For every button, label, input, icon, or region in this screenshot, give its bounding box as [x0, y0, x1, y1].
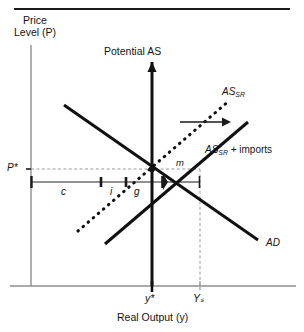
x-axis-tick-label-ys: Yₛ: [193, 292, 204, 304]
x-tick-label-1-text: Yₛ: [193, 292, 204, 304]
equilibrium-point-m: [149, 166, 155, 172]
potential-as-label: Potential AS: [104, 45, 161, 57]
as-sr-imports-label-sub: SR: [218, 149, 228, 156]
x-axis-title: Real Output (y): [117, 311, 188, 323]
point-label-m: m: [176, 157, 184, 168]
y-axis-title-line1: Price: [23, 14, 47, 26]
y-axis-title-line2: Level (P): [14, 26, 56, 38]
as-sr-label-text: AS: [222, 86, 235, 97]
x-axis-tick-label-y-star: y*: [145, 292, 154, 304]
potential-as-arrowhead-icon: [148, 62, 157, 72]
segment-label-i: i: [110, 186, 112, 198]
ad-label: AD: [266, 237, 280, 249]
segment-label-g: g: [134, 186, 140, 198]
y-axis-tick-label-p-star: P*: [7, 162, 18, 174]
potential-as-label-text: Potential AS: [104, 45, 161, 57]
as-sr-label-sub: SR: [235, 91, 245, 98]
segment-label-c: c: [61, 186, 66, 198]
as-sr-imports-label: ASSR + imports: [205, 144, 272, 156]
as-sr-label: ASSR: [222, 86, 245, 98]
shift-arrowhead-icon: [222, 118, 231, 127]
x-tick-label-0-text: y*: [145, 292, 154, 304]
as-sr-curve: [78, 100, 230, 231]
ad-curve: [64, 105, 258, 240]
ad-as-diagram-figure: Price Level (P) P* Potential AS ASSR ASS…: [0, 0, 304, 332]
as-sr-imports-label-prefix: AS: [205, 144, 218, 155]
as-sr-imports-label-suffix: + imports: [228, 144, 272, 155]
y-axis-title: Price Level (P): [14, 14, 56, 39]
